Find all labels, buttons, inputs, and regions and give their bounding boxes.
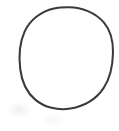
figure-canvas: Circle — [0, 0, 119, 131]
circle-figure-svg — [0, 0, 119, 131]
circle-stroke-group — [20, 7, 113, 109]
circle-outline-path — [20, 7, 113, 109]
